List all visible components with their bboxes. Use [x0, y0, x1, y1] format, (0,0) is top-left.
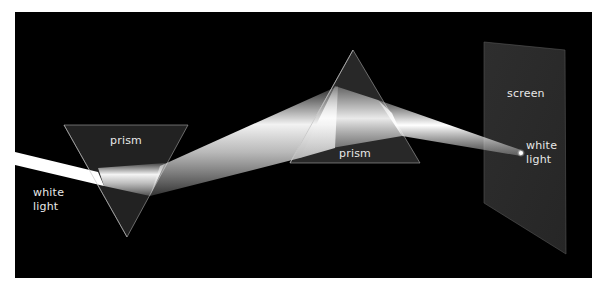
screen-label: screen	[507, 87, 545, 101]
light-spot-core	[519, 151, 523, 155]
prism-1-label: prism	[110, 134, 142, 148]
optics-diagram	[0, 0, 608, 289]
output-light-label-line1: white	[526, 139, 557, 153]
prism-2-label: prism	[339, 147, 371, 161]
input-light-label-line1: white	[33, 186, 64, 200]
output-light-label-line2: light	[526, 153, 551, 167]
input-light-label-line2: light	[33, 200, 58, 214]
